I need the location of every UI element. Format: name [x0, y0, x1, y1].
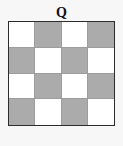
grid-cell — [62, 99, 88, 125]
grid-cell — [9, 48, 35, 74]
figure-label-row: Q — [8, 1, 115, 20]
page-title: Q — [56, 5, 67, 20]
grid-cell — [9, 99, 35, 125]
grid-cell — [88, 22, 114, 48]
grid-cell — [62, 48, 88, 74]
grid-cell — [62, 74, 88, 100]
grid-cell — [9, 22, 35, 48]
grid-cell — [35, 48, 61, 74]
grid-cell — [88, 99, 114, 125]
checkerboard-figure: Q — [0, 0, 123, 146]
checkerboard-grid — [8, 21, 115, 126]
grid-cell — [88, 74, 114, 100]
grid-cell — [35, 74, 61, 100]
grid-cell — [35, 99, 61, 125]
grid-cell — [88, 48, 114, 74]
grid-cell — [62, 22, 88, 48]
grid-cell — [9, 74, 35, 100]
grid-cell — [35, 22, 61, 48]
